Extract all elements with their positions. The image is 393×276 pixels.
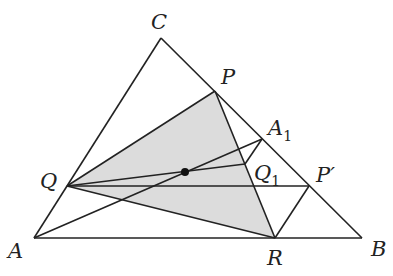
geometry-diagram: C P A1 Q1 P′ Q A R B bbox=[0, 0, 393, 276]
label-Q: Q bbox=[40, 169, 57, 193]
label-P: P bbox=[220, 65, 236, 89]
label-Q1-sub: 1 bbox=[271, 173, 280, 189]
centroid-dot bbox=[181, 168, 189, 176]
label-Pprime: P′ bbox=[315, 163, 335, 187]
label-Q1: Q1 bbox=[254, 161, 280, 189]
label-C: C bbox=[151, 10, 167, 34]
label-B: B bbox=[370, 237, 386, 261]
label-A1-sub: 1 bbox=[283, 128, 292, 144]
segment-PprimeR bbox=[275, 186, 309, 238]
label-A: A bbox=[6, 239, 23, 263]
label-A1: A1 bbox=[266, 116, 292, 144]
label-A1-main: A bbox=[266, 116, 283, 140]
label-R: R bbox=[266, 246, 283, 270]
label-Q1-main: Q bbox=[254, 161, 271, 185]
